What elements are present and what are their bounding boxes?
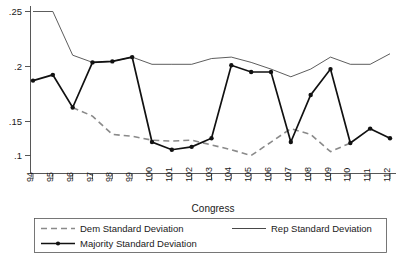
x-tick-label: 102 (184, 167, 194, 182)
y-tick-label: .2 (14, 61, 22, 72)
legend-swatch-majority-marker-icon (56, 241, 60, 245)
data-point-marker (368, 126, 372, 130)
series-line-rep (33, 12, 390, 77)
series-line-dem (73, 108, 351, 156)
data-point-marker (269, 70, 273, 74)
data-point-marker (31, 78, 35, 82)
legend-label-rep: Rep Standard Deviation (271, 223, 372, 234)
x-tick-label: 111 (362, 168, 372, 182)
x-tick-label: 96 (65, 172, 75, 182)
y-tick-label: .1 (14, 150, 22, 161)
x-tick-label: 103 (204, 167, 214, 182)
x-tick-label: 99 (124, 172, 134, 182)
x-axis-tick-labels: 9495969798991001011021031041051061071081… (25, 167, 392, 182)
x-axis-title: Congress (192, 203, 235, 214)
chart-series-layer (31, 12, 392, 156)
x-tick-label: 104 (223, 167, 233, 182)
data-point-marker (170, 148, 174, 152)
x-tick-label: 112 (382, 168, 392, 182)
data-point-marker (289, 140, 293, 144)
data-point-marker (308, 93, 312, 97)
x-tick-label: 107 (283, 167, 293, 182)
data-point-marker (209, 136, 213, 140)
series-line-majority (33, 57, 390, 150)
data-point-marker (130, 55, 134, 59)
data-point-marker (328, 67, 332, 71)
x-tick-label: 98 (104, 172, 114, 182)
y-axis-ticks (25, 12, 31, 156)
x-tick-label: 100 (144, 167, 154, 182)
y-tick-label: .15 (9, 116, 22, 127)
x-tick-label: 94 (25, 172, 35, 182)
x-tick-label: 108 (303, 167, 313, 182)
data-point-marker (150, 140, 154, 144)
legend-entry-rep: Rep Standard Deviation (232, 223, 372, 234)
data-point-marker (110, 59, 114, 63)
legend-entry-majority: Majority Standard Deviation (41, 238, 197, 249)
data-point-marker (90, 60, 94, 64)
legend-label-dem: Dem Standard Deviation (80, 223, 184, 234)
x-tick-label: 97 (85, 172, 95, 182)
chart-figure: .25 .2 .15 .1 94959697989910010110210310… (0, 0, 402, 257)
data-point-marker (189, 145, 193, 149)
data-point-marker (388, 136, 392, 140)
x-tick-label: 109 (323, 167, 333, 182)
x-tick-label: 101 (164, 167, 174, 182)
data-point-marker (249, 70, 253, 74)
y-tick-label: .25 (9, 6, 22, 17)
x-tick-label: 106 (263, 167, 273, 182)
data-point-marker (70, 105, 74, 109)
legend-label-majority: Majority Standard Deviation (80, 238, 197, 249)
chart-svg: .25 .2 .15 .1 94959697989910010110210310… (0, 0, 402, 257)
y-axis-tick-labels: .25 .2 .15 .1 (9, 6, 22, 161)
x-tick-label: 110 (342, 168, 352, 182)
legend-entry-dem: Dem Standard Deviation (41, 223, 184, 234)
data-point-marker (51, 73, 55, 77)
x-tick-label: 95 (45, 172, 55, 182)
data-point-marker (348, 141, 352, 145)
data-point-marker (229, 63, 233, 67)
x-tick-label: 105 (243, 167, 253, 182)
